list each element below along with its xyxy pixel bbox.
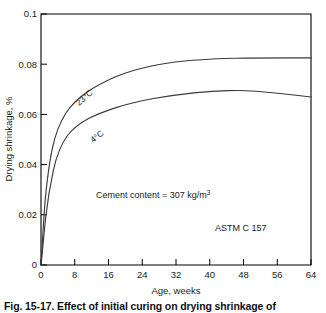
y-tick-label-2: 0.04 [19, 159, 38, 170]
series-curve-4c [41, 91, 311, 265]
figure-caption: Fig. 15-17. Effect of initial curing on … [0, 300, 326, 313]
x-tick-label-6: 48 [238, 269, 249, 280]
y-tick-label-3: 0.06 [19, 109, 38, 120]
plot-frame [41, 14, 311, 265]
y-tick-label-5: 0.1 [24, 8, 37, 19]
x-tick-label-3: 24 [137, 269, 148, 280]
x-tick-label-5: 40 [204, 269, 215, 280]
annotation-cement-content-exponent: 3 [207, 189, 211, 196]
chart-plot-area: 0 0.02 0.04 0.06 0.08 0.1 0 8 16 24 32 4… [0, 0, 326, 300]
x-tick-label-2: 16 [103, 269, 114, 280]
annotation-cement-content-text: Cement content = 307 kg/m [96, 190, 207, 200]
y-axis-ticks [41, 14, 47, 265]
x-tick-label-7: 56 [272, 269, 283, 280]
x-tick-label-8: 64 [306, 269, 317, 280]
annotation-cement-content: Cement content = 307 kg/m3 [96, 189, 211, 200]
figure-container: 0 0.02 0.04 0.06 0.08 0.1 0 8 16 24 32 4… [0, 0, 326, 313]
series-label-4c: 4°C [88, 128, 105, 145]
x-tick-label-4: 32 [171, 269, 182, 280]
y-tick-label-0: 0 [32, 259, 37, 270]
y-axis-title: Drying shrinkage, % [3, 96, 14, 182]
y-tick-label-4: 0.08 [19, 59, 38, 70]
x-axis-title: Age, weeks [151, 285, 200, 296]
x-axis-ticks [41, 259, 311, 265]
series-curve-23c [41, 58, 311, 265]
x-tick-label-1: 8 [72, 269, 77, 280]
x-tick-label-0: 0 [38, 269, 43, 280]
annotation-standard-reference: ASTM C 157 [215, 223, 267, 233]
y-tick-label-1: 0.02 [19, 209, 38, 220]
drying-shrinkage-chart: 0 0.02 0.04 0.06 0.08 0.1 0 8 16 24 32 4… [0, 0, 326, 300]
series-label-23c: 23°C [74, 87, 95, 107]
